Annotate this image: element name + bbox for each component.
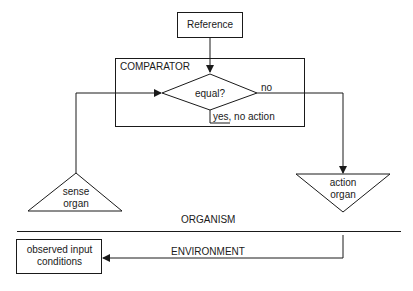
no-to-action-line <box>257 93 343 173</box>
comparator-title: COMPARATOR <box>120 61 190 73</box>
action-organ-label-line1: action <box>317 177 369 189</box>
decision-label: equal? <box>180 88 240 100</box>
sense-to-comparator-line <box>76 93 161 173</box>
input-box-label-line1: observed input <box>17 244 102 256</box>
organism-label: ORGANISM <box>181 214 235 226</box>
action-organ-label-line2: organ <box>317 189 369 201</box>
environment-label: ENVIRONMENT <box>171 246 245 258</box>
yes-label: yes, no action <box>213 111 275 123</box>
sense-organ-label-line2: organ <box>50 198 102 210</box>
input-box-label-line2: conditions <box>17 256 102 268</box>
sense-organ-label-line1: sense <box>50 186 102 198</box>
no-label: no <box>261 82 272 94</box>
reference-label: Reference <box>177 19 243 31</box>
